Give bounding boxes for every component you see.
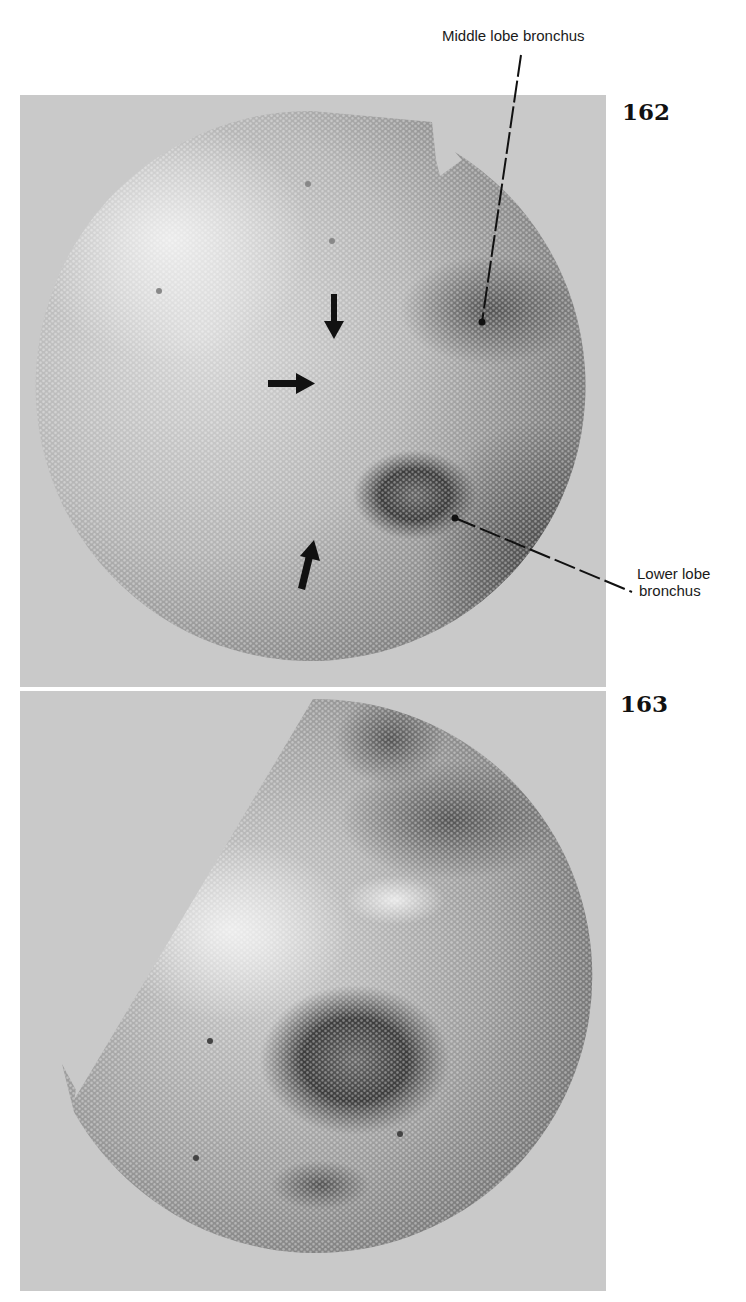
- lower-lobe-bronchus-label-line2: bronchus: [639, 582, 701, 599]
- endoscopy-image-162: [20, 95, 606, 687]
- middle-lobe-bronchus-label: Middle lobe bronchus: [442, 27, 585, 44]
- figure-number-162: 162: [622, 98, 670, 125]
- lower-lobe-bronchus-label-line1: Lower lobe: [637, 565, 710, 582]
- endoscopy-image-163: [20, 691, 606, 1291]
- figure-number-163: 163: [620, 690, 668, 717]
